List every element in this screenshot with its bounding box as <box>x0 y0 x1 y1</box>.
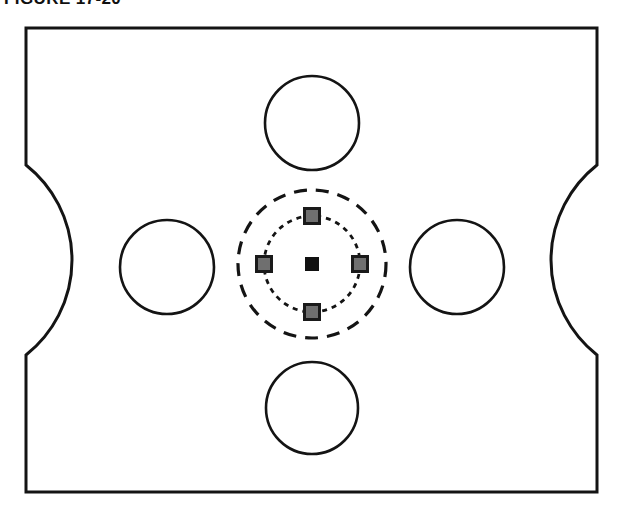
satellite-square-east <box>353 257 368 272</box>
satellite-square-south <box>305 305 320 320</box>
satellite-square-west <box>257 257 272 272</box>
figure-container: FIGURE 17-20 <box>0 0 638 516</box>
satellite-square-north <box>305 209 320 224</box>
engineering-drawing <box>0 0 638 516</box>
center-marker-square <box>306 258 319 271</box>
